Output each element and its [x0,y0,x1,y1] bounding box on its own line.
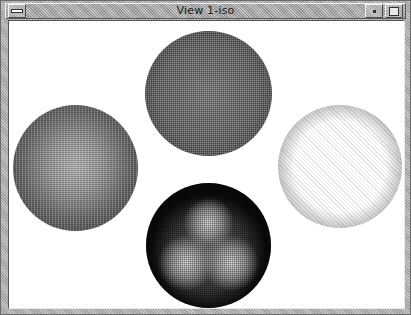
sphere-bottom [146,183,271,308]
minimize-icon [373,10,376,13]
minimize-button[interactable] [365,4,383,18]
application-window: View 1-iso [0,0,411,315]
maximize-icon [389,7,399,16]
window-title: View 1-iso [6,4,405,18]
sphere-right [278,105,402,228]
render-viewport[interactable] [8,20,405,309]
title-bar[interactable]: View 1-iso [5,3,406,19]
sphere-top [145,31,272,156]
maximize-button[interactable] [385,4,403,18]
sphere-left [13,105,138,231]
